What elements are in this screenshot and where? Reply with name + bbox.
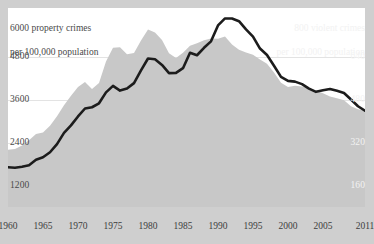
x-tick-2005: 2005 [314,221,333,231]
x-tick-1985: 1985 [174,221,193,231]
left-tick-3600: 3600 [10,94,29,105]
x-tick-1965: 1965 [34,221,53,231]
right-tick-640: 640 [350,51,365,62]
x-tick-1990: 1990 [209,221,228,231]
x-axis: 1960196519701975198019851990199520002005… [0,209,373,244]
x-tick-1980: 1980 [139,221,158,231]
x-tick-1995: 1995 [244,221,263,231]
x-tick-2011: 2011 [356,221,374,231]
left-tick-1200: 1200 [10,180,29,191]
x-tick-1975: 1975 [104,221,123,231]
x-tick-1970: 1970 [69,221,88,231]
left-tick-4800: 4800 [10,51,29,62]
left-axis-title-line1: 6000 property crimes [10,22,98,34]
right-tick-160: 160 [350,180,365,191]
right-axis-title-line1: 800 violent crimes [277,22,365,34]
x-tick-2000: 2000 [279,221,298,231]
left-tick-2400: 2400 [10,137,29,148]
x-tick-1960: 1960 [0,221,18,231]
right-tick-480: 480 [350,94,365,105]
right-tick-320: 320 [350,137,365,148]
